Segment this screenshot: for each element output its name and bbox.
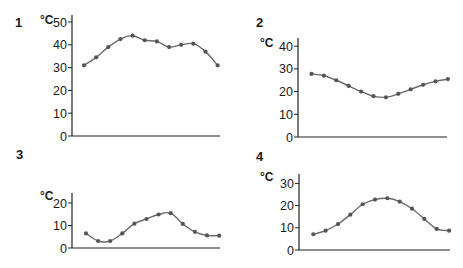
y-tick-label: 40 xyxy=(279,40,293,54)
panel-number: 2 xyxy=(256,15,263,30)
data-point xyxy=(193,230,197,234)
data-point xyxy=(348,213,352,217)
chart-panel-4: 4°C0102030 xyxy=(256,149,451,258)
data-point xyxy=(155,39,159,43)
data-point xyxy=(191,42,195,46)
data-point xyxy=(118,37,122,41)
panel-number: 1 xyxy=(15,15,22,30)
y-tick-label: 0 xyxy=(60,130,67,144)
data-point xyxy=(96,239,100,243)
data-point xyxy=(203,50,207,54)
y-tick-label: 50 xyxy=(53,16,67,30)
data-point xyxy=(371,94,375,98)
y-tick-label: 20 xyxy=(280,199,294,213)
data-point xyxy=(447,229,451,233)
y-tick-label: 20 xyxy=(53,197,67,211)
data-point xyxy=(167,45,171,49)
data-point xyxy=(132,222,136,226)
data-point xyxy=(143,38,147,42)
data-point xyxy=(84,231,88,235)
y-tick-label: 10 xyxy=(53,219,67,233)
y-tick-label: 40 xyxy=(53,38,67,52)
data-point xyxy=(385,196,389,200)
data-point xyxy=(421,83,425,87)
data-point xyxy=(106,45,110,49)
data-point xyxy=(446,77,450,81)
y-tick-label: 0 xyxy=(286,131,293,145)
data-point xyxy=(169,211,173,215)
y-tick-label: 10 xyxy=(280,221,294,235)
panel-number: 3 xyxy=(16,147,23,162)
series-line xyxy=(313,198,449,234)
data-point xyxy=(181,222,185,226)
data-point xyxy=(409,87,413,91)
y-tick-label: 0 xyxy=(60,242,67,256)
data-point xyxy=(384,95,388,99)
data-point xyxy=(324,229,328,233)
data-point xyxy=(131,34,135,38)
data-point xyxy=(359,90,363,94)
y-axis-unit-label: °C xyxy=(40,13,54,27)
y-tick-label: 20 xyxy=(53,84,67,98)
chart-panel-3: 3°C01020 xyxy=(16,147,221,256)
data-point xyxy=(94,55,98,59)
y-tick-label: 30 xyxy=(53,61,67,75)
data-point xyxy=(422,217,426,221)
series-line xyxy=(312,74,448,98)
data-point xyxy=(217,234,221,238)
y-axis-unit-label: °C xyxy=(40,189,54,203)
y-tick-label: 0 xyxy=(287,244,294,258)
y-tick-label: 30 xyxy=(279,62,293,76)
data-point xyxy=(120,231,124,235)
data-point xyxy=(435,227,439,231)
data-point xyxy=(336,222,340,226)
data-point xyxy=(311,232,315,236)
data-point xyxy=(108,239,112,243)
chart-panel-1: 1°C01020304050 xyxy=(15,13,220,144)
data-point xyxy=(179,43,183,47)
data-point xyxy=(347,84,351,88)
data-point xyxy=(205,233,209,237)
series-line xyxy=(86,213,219,242)
data-point xyxy=(396,92,400,96)
y-tick-label: 30 xyxy=(280,177,294,191)
data-point xyxy=(361,202,365,206)
panel-number: 4 xyxy=(256,149,264,164)
data-point xyxy=(309,72,313,76)
data-point xyxy=(334,78,338,82)
data-point xyxy=(322,74,326,78)
y-tick-label: 20 xyxy=(279,85,293,99)
climate-charts: 1°C010203040502°C0102030403°C010204°C010… xyxy=(0,0,463,268)
y-axis-unit-label: °C xyxy=(260,170,274,184)
y-tick-label: 10 xyxy=(53,107,67,121)
y-tick-label: 10 xyxy=(279,108,293,122)
data-point xyxy=(82,63,86,67)
data-point xyxy=(398,200,402,204)
data-point xyxy=(216,63,220,67)
chart-panel-2: 2°C010203040 xyxy=(256,15,450,145)
data-point xyxy=(410,207,414,211)
series-line xyxy=(84,36,218,66)
data-point xyxy=(433,79,437,83)
data-point xyxy=(157,212,161,216)
y-axis-unit-label: °C xyxy=(260,36,274,50)
data-point xyxy=(144,217,148,221)
data-point xyxy=(373,198,377,202)
